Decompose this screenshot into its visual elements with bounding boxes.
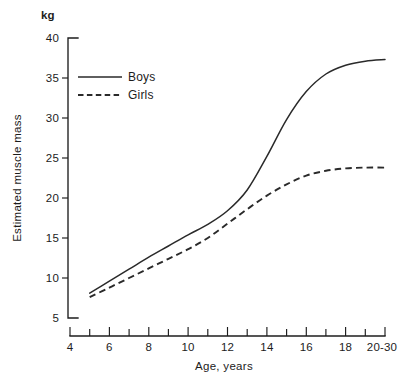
y-tick-label-10: 10: [46, 272, 59, 284]
y-tick-label-25: 25: [46, 152, 59, 164]
line-chart-canvas: 40 35 30 25 20 15 10 5 kg Estimated musc…: [0, 0, 408, 380]
x-tick-label-16: 16: [300, 341, 313, 353]
x-axis-title: Age, years: [195, 360, 253, 372]
y-tick-label-5: 5: [52, 312, 59, 324]
y-tick-label-30: 30: [46, 112, 59, 124]
y-axis-tick-labels: 40 35 30 25 20 15 10 5: [46, 32, 59, 324]
legend-label-girls: Girls: [128, 88, 154, 102]
y-axis-line: [68, 38, 78, 318]
x-tick-label-10: 10: [181, 341, 194, 353]
x-axis-ticks: [70, 327, 385, 336]
x-tick-label-12: 12: [221, 341, 234, 353]
y-tick-label-15: 15: [46, 232, 59, 244]
chart-legend: Boys Girls: [78, 70, 155, 102]
y-tick-label-35: 35: [46, 72, 59, 84]
x-tick-label-8: 8: [145, 341, 152, 353]
y-tick-label-20: 20: [46, 192, 59, 204]
x-tick-label-6: 6: [106, 341, 113, 353]
y-axis-ticks: [62, 78, 68, 278]
chart-figure: 40 35 30 25 20 15 10 5 kg Estimated musc…: [0, 0, 408, 380]
y-axis-unit-label: kg: [41, 9, 55, 21]
x-tick-label-14: 14: [260, 341, 274, 353]
x-tick-label-18: 18: [339, 341, 352, 353]
legend-label-boys: Boys: [128, 70, 155, 84]
series-line-girls: [90, 168, 385, 298]
x-axis-tick-labels: 4 6 8 10 12 14 16 18 20-30: [67, 341, 398, 353]
y-tick-label-40: 40: [46, 32, 59, 44]
y-axis-title: Estimated muscle mass: [11, 114, 23, 242]
x-tick-label-4: 4: [67, 341, 74, 353]
x-tick-label-20-30: 20-30: [367, 341, 397, 353]
